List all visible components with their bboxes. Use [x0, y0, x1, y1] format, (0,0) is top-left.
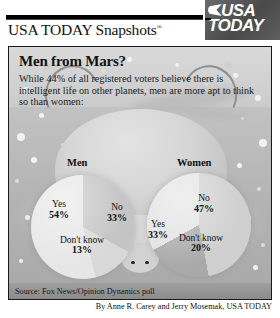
- alien-eye-left: [131, 261, 135, 264]
- star: [19, 259, 23, 263]
- star: [175, 63, 179, 67]
- star: [237, 163, 242, 168]
- group-label-women: Women: [177, 157, 211, 168]
- credit-line: By Anne R. Carey and Jerry Mosemak, USA …: [96, 302, 272, 311]
- usa-today-logo: USA TODAY: [205, 0, 280, 40]
- pie-men-slice-yes: Yes 54%: [39, 199, 79, 220]
- star: [39, 113, 44, 118]
- pie-women-slice-dontknow: Don't know 20%: [177, 233, 225, 253]
- pie-men-yes-value: 54%: [39, 210, 79, 221]
- pie-women-no-label: No: [187, 193, 221, 204]
- graphic-panel: Men from Mars? While 44% of all register…: [8, 46, 272, 300]
- pie-women-slice-no: No 47%: [187, 193, 221, 214]
- registered-mark: ®: [157, 23, 162, 31]
- pie-women-no-value: 47%: [187, 204, 221, 215]
- pie-men-yes-label: Yes: [39, 199, 79, 210]
- star: [31, 157, 37, 163]
- logo-left-rule: [205, 18, 211, 20]
- star: [127, 57, 132, 62]
- star: [15, 179, 19, 183]
- pie-men-no-label: No: [101, 202, 133, 213]
- brand-title-text: USA TODAY Snapshots: [8, 21, 157, 38]
- star: [261, 243, 265, 247]
- subhead: While 44% of all registered voters belie…: [19, 73, 263, 108]
- pie-women-yes-value: 33%: [141, 230, 175, 241]
- header-rule: [6, 15, 203, 20]
- group-label-men: Men: [67, 157, 87, 168]
- pie-men-slice-dontknow: Don't know 13%: [57, 235, 107, 255]
- star: [253, 265, 258, 270]
- source-line: Source: Fox News/Opinion Dynamics poll: [15, 287, 155, 296]
- star: [241, 117, 244, 120]
- pie-women-slice-yes: Yes 33%: [141, 219, 175, 240]
- page-title: USA TODAY Snapshots®: [8, 21, 208, 43]
- pie-men-slice-no: No 33%: [101, 202, 133, 223]
- pie-men-highlight: [31, 175, 135, 279]
- pie-women-dontknow-value: 20%: [177, 243, 225, 253]
- star: [257, 187, 261, 191]
- snapshot-graphic: USA TODAY Snapshots® USA TODAY: [0, 0, 280, 318]
- star: [17, 133, 25, 141]
- pie-women-yes-label: Yes: [141, 219, 175, 230]
- antenna-tip-right: [225, 61, 232, 68]
- star: [25, 215, 30, 220]
- pie-men-no-value: 33%: [101, 213, 133, 224]
- headline: Men from Mars?: [19, 53, 126, 70]
- star: [259, 139, 267, 147]
- pie-men-dontknow-value: 13%: [57, 245, 107, 255]
- alien-eye-right: [145, 261, 149, 264]
- logo-today-text: TODAY: [208, 17, 263, 34]
